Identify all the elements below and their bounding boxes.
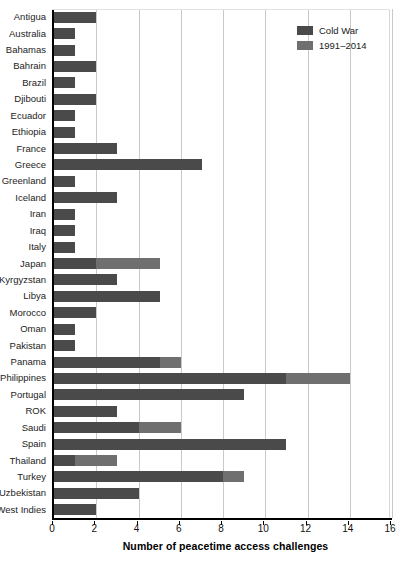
- stacked-bar: [54, 110, 75, 121]
- bar-segment-cold-war: [54, 45, 75, 56]
- stacked-bar: [54, 357, 181, 368]
- y-axis-label: Italy: [0, 242, 46, 252]
- stacked-bar: [54, 225, 75, 236]
- x-tick-label: 0: [49, 523, 55, 534]
- y-axis-label-text: Saudi: [0, 423, 46, 433]
- stacked-bar: [54, 324, 75, 335]
- y-axis-label-text: Thailand: [0, 456, 46, 466]
- bar-row: [54, 357, 390, 368]
- bar-segment-cold-war: [54, 77, 75, 88]
- plot-top-border: [52, 9, 390, 10]
- bar-segment-post-1991: [139, 422, 181, 433]
- y-axis-label-text: Iceland: [0, 193, 46, 203]
- y-axis-label-text: Greece: [0, 160, 46, 170]
- bar-segment-cold-war: [54, 274, 117, 285]
- legend-label-cold-war: Cold War: [319, 25, 358, 36]
- y-axis-label: Libya: [0, 291, 46, 301]
- bar-row: [54, 389, 390, 400]
- legend-swatch-post-1991: [297, 41, 313, 50]
- bar-segment-cold-war: [54, 209, 75, 220]
- bar-row: [54, 209, 390, 220]
- y-axis-label: Spain: [0, 439, 46, 449]
- bar-row: [54, 471, 390, 482]
- y-axis-label: Antigua: [0, 12, 46, 22]
- bar-segment-cold-war: [54, 357, 160, 368]
- y-axis-label: Kyrgyzstan: [0, 275, 46, 285]
- y-axis-label-text: Portugal: [0, 390, 46, 400]
- bar-row: [54, 12, 390, 23]
- y-axis-label: Greece: [0, 160, 46, 170]
- stacked-bar: [54, 422, 181, 433]
- y-axis-label-text: ROK: [0, 406, 46, 416]
- y-axis-label-text: Australia: [0, 29, 46, 39]
- plot-right-border: [389, 9, 390, 519]
- bar-row: [54, 192, 390, 203]
- stacked-bar: [54, 406, 117, 417]
- y-axis-label: Bahrain: [0, 61, 46, 71]
- y-axis-label: Thailand: [0, 456, 46, 466]
- y-axis-label: Australia: [0, 29, 46, 39]
- stacked-bar: [54, 471, 244, 482]
- stacked-bar: [54, 77, 75, 88]
- stacked-bar: [54, 28, 75, 39]
- stacked-bar: [54, 61, 96, 72]
- y-axis-label-text: Ethiopia: [0, 127, 46, 137]
- stacked-bar: [54, 94, 96, 105]
- bar-row: [54, 176, 390, 187]
- bar-segment-cold-war: [54, 291, 160, 302]
- stacked-bar: [54, 307, 96, 318]
- bar-row: [54, 324, 390, 335]
- x-axis-ticks: 0246810121416: [0, 521, 407, 539]
- x-tick-label: 8: [218, 523, 224, 534]
- y-axis-label: Iceland: [0, 193, 46, 203]
- chart-legend: Cold War 1991–2014: [297, 25, 367, 51]
- bar-segment-cold-war: [54, 110, 75, 121]
- y-axis-label: West Indies: [0, 505, 46, 515]
- bar-row: [54, 291, 390, 302]
- x-axis-title: Number of peacetime access challenges: [0, 540, 407, 552]
- bar-segment-cold-war: [54, 225, 75, 236]
- y-axis-label-text: Iraq: [0, 226, 46, 236]
- bar-row: [54, 439, 390, 450]
- plot-area: [52, 9, 390, 518]
- y-axis-label-text: Philippines: [0, 373, 46, 383]
- y-axis-label-text: Libya: [0, 291, 46, 301]
- bar-row: [54, 373, 390, 384]
- y-axis-label: Brazil: [0, 78, 46, 88]
- stacked-bar: [54, 159, 202, 170]
- y-axis-label-text: Uzbekistan: [0, 488, 46, 498]
- y-axis-label: Oman: [0, 324, 46, 334]
- legend-label-post-1991: 1991–2014: [319, 40, 367, 51]
- bar-row: [54, 143, 390, 154]
- bar-row: [54, 94, 390, 105]
- x-axis-title-text: Number of peacetime access challenges: [123, 540, 329, 552]
- y-axis-labels: AntiguaAustraliaBahamasBahrainBrazilDjib…: [0, 9, 50, 518]
- y-axis-label: Ecuador: [0, 111, 46, 121]
- x-axis-line: [52, 518, 392, 520]
- x-tick-label: 10: [258, 523, 269, 534]
- y-axis-label: Iran: [0, 209, 46, 219]
- stacked-bar: [54, 373, 350, 384]
- y-axis-label-text: Kyrgyzstan: [0, 275, 46, 285]
- x-tick-label: 14: [342, 523, 353, 534]
- bar-segment-cold-war: [54, 504, 96, 515]
- bar-segment-cold-war: [54, 61, 96, 72]
- bar-rows: [54, 9, 390, 518]
- y-axis-label: ROK: [0, 406, 46, 416]
- y-axis-label: Turkey: [0, 472, 46, 482]
- bar-row: [54, 504, 390, 515]
- bar-row: [54, 340, 390, 351]
- bar-segment-cold-war: [54, 471, 223, 482]
- legend-swatch-cold-war: [297, 26, 313, 35]
- y-axis-label-text: Panama: [0, 357, 46, 367]
- stacked-bar: [54, 274, 117, 285]
- bar-segment-cold-war: [54, 258, 96, 269]
- bar-segment-cold-war: [54, 488, 139, 499]
- bar-segment-cold-war: [54, 94, 96, 105]
- stacked-bar: [54, 209, 75, 220]
- x-tick-label: 4: [134, 523, 140, 534]
- y-axis-label-text: Antigua: [0, 12, 46, 22]
- y-axis-label-text: Oman: [0, 324, 46, 334]
- y-axis-label: Iraq: [0, 226, 46, 236]
- stacked-bar: [54, 45, 75, 56]
